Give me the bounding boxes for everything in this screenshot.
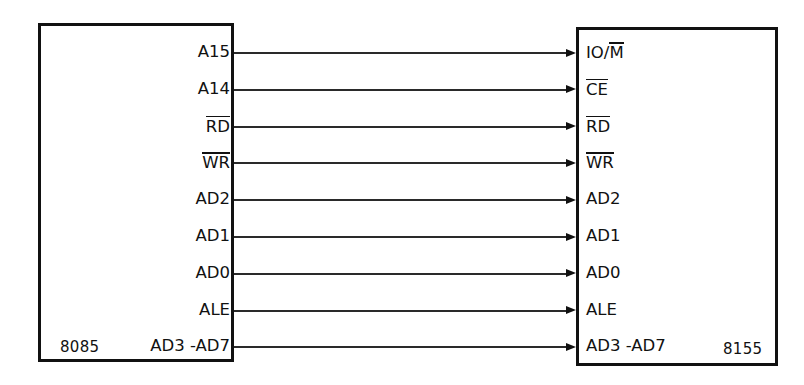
wire-ad1 bbox=[234, 236, 566, 238]
pin-label-left-rd: RD bbox=[206, 118, 230, 136]
chip-8155-label: 8155 bbox=[723, 340, 762, 358]
wire-a14 bbox=[234, 89, 566, 91]
pin-label-right-rd: RD bbox=[586, 118, 610, 136]
pin-label-left-ad1: AD1 bbox=[196, 228, 231, 245]
wire-ad2 bbox=[234, 199, 566, 201]
chip-8085-label: 8085 bbox=[60, 338, 99, 356]
wire-ad3-ad7 bbox=[234, 346, 566, 348]
pin-label-right-ad3-ad7: AD3 -AD7 bbox=[586, 338, 666, 355]
block-diagram: 8085 8155 A15IO/MA14CERDRDWRWRAD2AD2AD1A… bbox=[0, 0, 804, 385]
pin-label-left-ad2: AD2 bbox=[196, 191, 231, 208]
pin-label-right-ad0: AD0 bbox=[586, 265, 621, 282]
pin-label-right-io/m: IO/M bbox=[586, 44, 624, 62]
pin-label-right-ale: ALE bbox=[586, 302, 617, 319]
arrowhead-ad2 bbox=[566, 196, 576, 204]
pin-label-left-a15: A15 bbox=[198, 44, 230, 61]
arrowhead-ce bbox=[566, 85, 576, 93]
arrowhead-ad3-ad7 bbox=[566, 343, 576, 351]
wire-ad0 bbox=[234, 273, 566, 275]
wire-a15 bbox=[234, 52, 566, 54]
arrowhead-ad1 bbox=[566, 233, 576, 241]
pin-label-left-wr: WR bbox=[202, 154, 230, 172]
wire-ale bbox=[234, 310, 566, 312]
pin-label-right-ad1: AD1 bbox=[586, 228, 621, 245]
pin-label-right-ce: CE bbox=[586, 81, 608, 99]
arrowhead-io/m bbox=[566, 49, 576, 57]
arrowhead-wr bbox=[566, 159, 576, 167]
arrowhead-ad0 bbox=[566, 269, 576, 277]
pin-label-left-a14: A14 bbox=[198, 81, 230, 98]
pin-label-right-wr: WR bbox=[586, 154, 614, 172]
arrowhead-rd bbox=[566, 122, 576, 130]
arrowhead-ale bbox=[566, 306, 576, 314]
pin-label-left-ad0: AD0 bbox=[196, 265, 231, 282]
pin-label-left-ad3-ad7: AD3 -AD7 bbox=[150, 338, 230, 355]
pin-label-left-ale: ALE bbox=[199, 302, 230, 319]
wire-wr bbox=[234, 162, 566, 164]
pin-label-right-ad2: AD2 bbox=[586, 191, 621, 208]
wire-rd bbox=[234, 126, 566, 128]
